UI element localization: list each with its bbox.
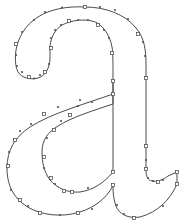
glyph-a: [0, 0, 184, 224]
background: [0, 0, 184, 224]
